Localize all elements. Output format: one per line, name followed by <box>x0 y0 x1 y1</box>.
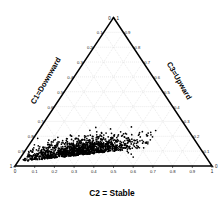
bottom-tick-label: 0 <box>14 169 17 174</box>
right-tick-label: 0.6 <box>154 75 160 80</box>
left-tick-label: 0.8 <box>28 134 34 139</box>
axis-titles: C2 = Stable C1=Downward C3=Upward <box>29 55 194 198</box>
right-tick-label: 0.5 <box>164 90 170 95</box>
ternary-plot-canvas: 00.10.20.30.40.50.60.70.80.9100.10.20.30… <box>0 0 224 204</box>
left-tick-label: 1 <box>10 164 13 169</box>
bottom-tick-label: 0.9 <box>189 169 195 174</box>
right-tick-label: 1 <box>116 16 119 21</box>
right-tick-label: 0.1 <box>203 149 209 154</box>
left-tick-label: 0.9 <box>18 149 24 154</box>
left-tick-label: 0.2 <box>87 45 93 50</box>
right-tick-label: 0.9 <box>125 30 131 35</box>
left-axis-title: C1=Downward <box>29 55 63 105</box>
left-tick-label: 0.6 <box>47 105 53 110</box>
bottom-tick-label: 0.5 <box>111 169 117 174</box>
bottom-tick-label: 0.8 <box>170 169 176 174</box>
bottom-tick-label: 0.1 <box>32 169 38 174</box>
bottom-tick-label: 1 <box>211 169 214 174</box>
left-tick-label: 0.1 <box>97 30 103 35</box>
left-tick-label: 0.4 <box>67 75 73 80</box>
bottom-tick-label: 0.7 <box>150 169 156 174</box>
left-tick-label: 0 <box>108 16 111 21</box>
bottom-tick-label: 0.2 <box>51 169 57 174</box>
left-tick-label: 0.7 <box>38 119 44 124</box>
right-tick-label: 0.8 <box>134 45 140 50</box>
right-tick-label: 0.3 <box>184 119 190 124</box>
right-axis-title: C3=Upward <box>165 60 194 101</box>
ternary-plot-figure: 00.10.20.30.40.50.60.70.80.9100.10.20.30… <box>0 0 224 204</box>
bottom-tick-label: 0.4 <box>91 169 97 174</box>
right-tick-label: 0.7 <box>144 60 150 65</box>
data-point-cloud <box>22 126 156 162</box>
bottom-axis-title: C2 = Stable <box>89 188 135 198</box>
bottom-tick-label: 0.6 <box>130 169 136 174</box>
bottom-tick-label: 0.3 <box>71 169 77 174</box>
left-tick-label: 0.3 <box>77 60 83 65</box>
right-tick-label: 0 <box>215 164 218 169</box>
right-tick-label: 0.4 <box>174 105 180 110</box>
right-tick-label: 0.2 <box>194 134 200 139</box>
left-tick-label: 0.5 <box>57 90 63 95</box>
